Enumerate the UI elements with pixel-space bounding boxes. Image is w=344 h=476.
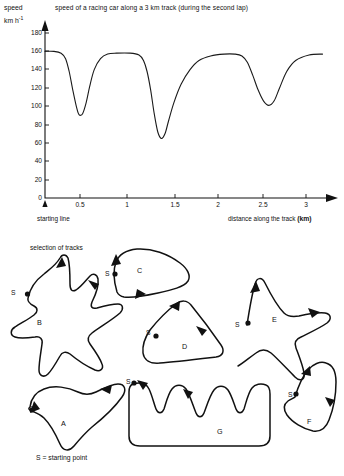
direction-arrow-G1: [137, 380, 148, 390]
track-E-path: [238, 279, 330, 380]
direction-arrow-E2: [308, 308, 320, 318]
track-label-D: D: [182, 342, 187, 351]
start-label-G: S: [126, 378, 131, 385]
x-axis-arrow-icon: [326, 194, 338, 202]
direction-arrow-G2: [183, 389, 193, 399]
track-D: [143, 301, 223, 363]
track-A-path: [29, 384, 125, 450]
track-label-E: E: [272, 315, 277, 324]
start-label-E: S: [235, 321, 240, 328]
x-tick-3: 3: [296, 201, 316, 208]
start-label-C: S: [105, 270, 110, 277]
chart-plot-area: [0, 0, 344, 232]
y-tick-180: 180: [16, 29, 42, 36]
starting-line-label: starting line: [37, 215, 70, 222]
start-label-A: S: [30, 405, 35, 412]
chart-title: speed of a racing car along a 3 km track…: [55, 4, 248, 11]
x-tick-1-5: 1.5: [165, 201, 185, 208]
track-selection-diagram: selection of tracks S = starting point A…: [0, 232, 344, 476]
y-tick-20: 20: [16, 176, 42, 183]
y-axis-ticks: 180 160 140 120 100 80 60 40 20 0: [14, 0, 42, 205]
x-axis-unit: (km): [297, 215, 311, 222]
track-G-path: [129, 383, 270, 446]
speed-curve-line: [45, 51, 323, 138]
y-tick-160: 160: [16, 47, 42, 54]
worksheet-page: speed of a racing car along a 3 km track…: [0, 0, 344, 476]
track-E: [238, 279, 330, 380]
direction-arrow-C2: [135, 289, 146, 299]
tracks-legend: S = starting point: [36, 454, 87, 461]
start-dot-D: [153, 333, 158, 338]
x-tick-marks: [80, 194, 306, 198]
y-tick-80: 80: [16, 121, 42, 128]
start-dot-E: [245, 320, 250, 325]
track-label-G: G: [217, 427, 223, 436]
start-dot-G: [131, 380, 136, 385]
track-A: [29, 384, 125, 450]
track-D-path: [143, 301, 223, 363]
track-G: [129, 380, 270, 446]
track-label-A: A: [61, 419, 66, 428]
track-label-F: F: [307, 417, 311, 426]
axis-lines: [45, 30, 327, 198]
start-label-B: S: [11, 289, 16, 296]
track-C: [111, 249, 189, 299]
start-dot-B: [25, 291, 30, 296]
x-tick-2: 2: [208, 201, 228, 208]
track-C-path: [114, 249, 189, 297]
x-tick-2-5: 2.5: [253, 201, 273, 208]
track-label-B: B: [37, 318, 42, 327]
start-label-F: S: [288, 391, 293, 398]
y-tick-120: 120: [16, 84, 42, 91]
x-tick-0-5: 0.5: [70, 201, 90, 208]
y-tick-40: 40: [16, 157, 42, 164]
track-label-C: C: [137, 266, 142, 275]
y-tick-100: 100: [16, 102, 42, 109]
direction-arrow-A2: [100, 385, 112, 394]
direction-arrow-D2: [196, 326, 207, 336]
tracks-caption: selection of tracks: [30, 244, 83, 251]
direction-arrow-D1: [169, 301, 180, 311]
y-tick-0: 0: [16, 194, 42, 201]
y-axis-arrow-icon: [42, 20, 49, 31]
start-dot-F: [293, 391, 298, 396]
start-label-D: S: [146, 329, 151, 336]
y-tick-140: 140: [16, 65, 42, 72]
x-axis-label: distance along the track (km): [228, 215, 312, 222]
tracks-svg: .trk { fill:none; stroke:#111; stroke-wi…: [0, 232, 344, 476]
x-axis-label-text: distance along the track: [228, 215, 296, 222]
y-tick-60: 60: [16, 139, 42, 146]
y-tick-marks: [45, 33, 49, 180]
speed-distance-chart: speed of a racing car along a 3 km track…: [0, 0, 344, 232]
start-dot-C: [112, 271, 117, 276]
x-tick-1: 1: [117, 201, 137, 208]
starting-line-marker-icon: [42, 200, 47, 207]
